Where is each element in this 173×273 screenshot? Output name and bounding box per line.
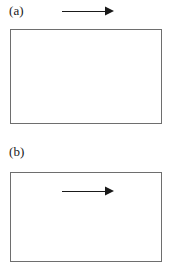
panel-b-arrow-head [105, 187, 114, 196]
panel-b-label: (b) [9, 145, 24, 159]
panel-a-arrow-head [105, 7, 114, 16]
panel-a: (a) [0, 0, 173, 134]
panel-a-frame-rectangle [10, 29, 162, 124]
panel-a-arrow-right-icon [60, 4, 116, 18]
panel-b: (b) [0, 139, 173, 273]
panel-b-arrow-right-icon [60, 184, 116, 198]
panel-a-label: (a) [9, 4, 24, 18]
figure-root: (a) (b) [0, 0, 173, 273]
